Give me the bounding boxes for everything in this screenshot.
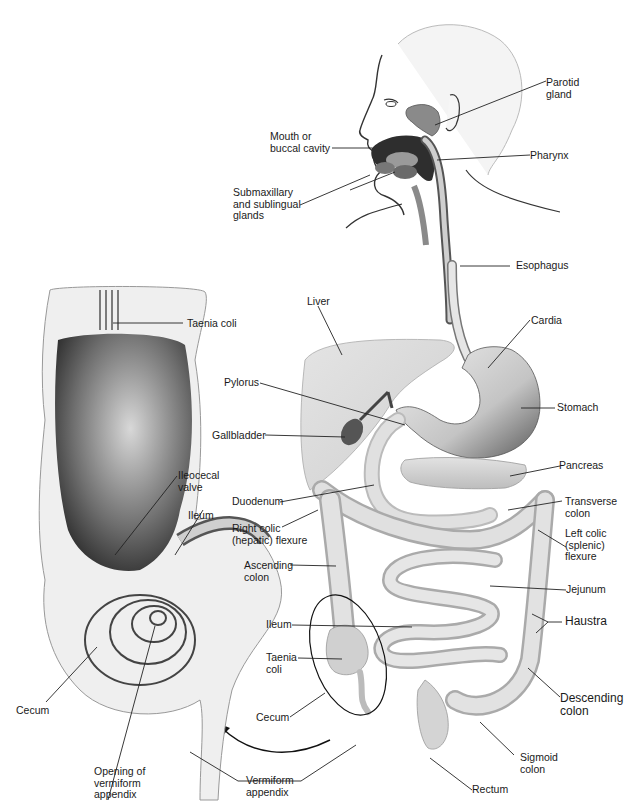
label-descending-colon: Descending colon (560, 692, 623, 718)
detail-arrow (222, 728, 330, 752)
label-stomach: Stomach (557, 402, 598, 414)
label-haustra: Haustra (565, 615, 607, 628)
label-liver: Liver (307, 296, 330, 308)
label-ileum: Ileum (266, 619, 292, 631)
label-pancreas: Pancreas (559, 460, 603, 472)
digestive-system-illustration (0, 0, 631, 802)
label-parotid-gland: Parotid gland (546, 77, 579, 100)
label-cardia: Cardia (531, 315, 562, 327)
label-cecum-detail: Cecum (16, 705, 49, 717)
label-taenia-coli: Taenia coli (266, 652, 297, 675)
label-jejunum: Jejunum (566, 584, 606, 596)
label-ileum-detail: Ileum (188, 510, 214, 522)
pancreas-shape (401, 458, 526, 489)
label-submaxillary: Submaxillary and sublingual glands (233, 187, 301, 222)
cecum-small (326, 625, 368, 675)
rectum-shape (417, 680, 448, 749)
label-cecum: Cecum (256, 712, 289, 724)
label-sigmoid-colon: Sigmoid colon (520, 752, 558, 775)
label-opening-appendix: Opening of vermiform appendix (94, 766, 145, 801)
label-right-colic-flexure: Right colic (hepatic) flexure (232, 523, 307, 546)
label-pylorus: Pylorus (224, 377, 259, 389)
label-vermiform-appendix: Vermiform appendix (246, 775, 294, 798)
label-mouth: Mouth or buccal cavity (270, 131, 330, 154)
label-taenia-coli-detail: Taenia coli (187, 318, 237, 330)
label-transverse-colon: Transverse colon (565, 496, 617, 519)
label-ascending-colon: Ascending colon (244, 560, 293, 583)
label-esophagus: Esophagus (516, 260, 569, 272)
label-rectum: Rectum (472, 784, 508, 796)
label-gallbladder: Gallbladder (212, 430, 266, 442)
small-intestine (381, 556, 500, 661)
label-ileocecal-valve: Ileocecal valve (178, 470, 219, 493)
label-left-colic-flexure: Left colic (splenic) flexure (565, 528, 606, 563)
label-pharynx: Pharynx (530, 150, 569, 162)
label-duodenum: Duodenum (232, 496, 283, 508)
